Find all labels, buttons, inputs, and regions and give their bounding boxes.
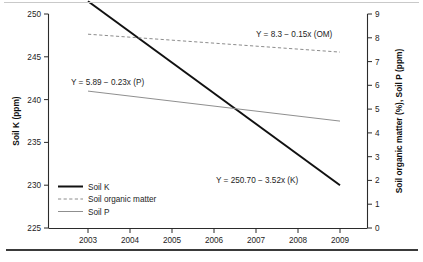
x-tick-label-2004: 2004: [121, 236, 140, 245]
plot-series-group: [88, 1, 340, 185]
x-axis-group: 2003 2004 2005 2006 2007 2008 2009: [49, 229, 368, 246]
figure-bottom-rule: [6, 249, 418, 251]
legend-label-soil-k: Soil K: [88, 183, 110, 192]
left-tick-label-225: 225: [27, 224, 41, 233]
x-tick-label-2006: 2006: [205, 236, 224, 245]
right-axis-group: 9 8 7 6 5 4 3 2 1 0 Soil organic matter …: [368, 10, 405, 233]
left-tick-label-235: 235: [27, 138, 41, 147]
right-tick-label-3: 3: [375, 153, 380, 162]
x-tick-label-2003: 2003: [79, 236, 98, 245]
annotation-equation-p: Y = 5.89 − 0.23x (P): [71, 78, 144, 87]
right-tick-label-2: 2: [375, 176, 380, 185]
right-axis-title: Soil organic matter (%), Soil P (ppm): [394, 49, 404, 194]
right-tick-label-7: 7: [375, 58, 380, 67]
left-tick-label-250: 250: [27, 10, 41, 19]
legend-label-soil-p: Soil P: [88, 208, 110, 217]
line-chart-canvas: 250 245 240 235 230 225 Soil K (ppm) 9 8…: [0, 0, 423, 262]
figure-top-rule: [4, 2, 419, 3]
left-tick-label-240: 240: [27, 96, 41, 105]
series-line-soil-k: [88, 1, 340, 185]
annotation-equation-om: Y = 8.3 − 0.15x (OM): [256, 30, 333, 39]
right-tick-label-5: 5: [375, 105, 380, 114]
chart-figure: 250 245 240 235 230 225 Soil K (ppm) 9 8…: [0, 0, 423, 262]
right-tick-label-9: 9: [375, 10, 380, 19]
annotation-equation-k: Y = 250.70 − 3.52x (K): [216, 176, 299, 185]
right-tick-label-6: 6: [375, 81, 380, 90]
x-tick-label-2005: 2005: [163, 236, 182, 245]
left-tick-label-230: 230: [27, 181, 41, 190]
x-tick-label-2009: 2009: [331, 236, 350, 245]
right-tick-label-0: 0: [375, 224, 380, 233]
right-tick-label-8: 8: [375, 34, 380, 43]
right-tick-label-1: 1: [375, 200, 380, 209]
x-tick-label-2008: 2008: [289, 236, 308, 245]
right-tick-label-4: 4: [375, 129, 380, 138]
left-axis-title: Soil K (ppm): [11, 96, 21, 146]
x-tick-label-2007: 2007: [247, 236, 266, 245]
left-tick-label-245: 245: [27, 53, 41, 62]
chart-legend: Soil K Soil organic matter Soil P: [58, 183, 157, 217]
equation-annotations-group: Y = 8.3 − 0.15x (OM) Y = 5.89 − 0.23x (P…: [71, 30, 333, 185]
series-line-soil-p: [88, 91, 340, 121]
left-axis-group: 250 245 240 235 230 225 Soil K (ppm): [11, 10, 49, 233]
legend-label-soil-organic-matter: Soil organic matter: [88, 195, 157, 204]
